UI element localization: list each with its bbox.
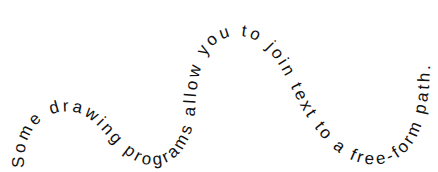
text-on-path-figure: Some drawing programs allow you to join … [0, 0, 438, 172]
wavy-path-graphic: Some drawing programs allow you to join … [0, 0, 438, 172]
path-text-content: Some drawing programs allow you to join … [9, 21, 434, 169]
path-text: Some drawing programs allow you to join … [9, 21, 434, 169]
